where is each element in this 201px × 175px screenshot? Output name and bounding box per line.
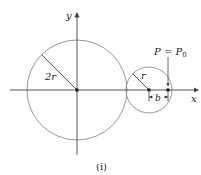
- x-axis-label: x: [191, 93, 197, 104]
- point-p: [167, 89, 170, 92]
- figure: y x 2r r b P = P0 (i): [0, 0, 201, 175]
- small-radius-label: r: [141, 70, 147, 81]
- large-radius-label: 2r: [44, 71, 57, 82]
- distance-label: b: [155, 93, 161, 103]
- large-center-point: [76, 89, 79, 92]
- diagram-canvas: y x 2r r b P = P0 (i): [0, 0, 201, 175]
- point-label: P = P0: [153, 46, 187, 59]
- small-center-point: [148, 89, 151, 92]
- figure-caption: (i): [96, 161, 107, 172]
- y-axis-label: y: [65, 10, 72, 21]
